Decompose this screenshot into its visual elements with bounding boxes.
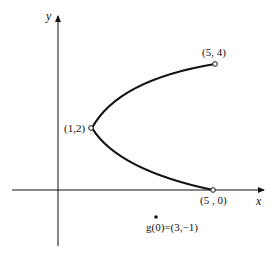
upper-end-label: (5, 4) <box>202 46 226 59</box>
y-axis-label: y <box>45 9 52 23</box>
g-point <box>154 215 158 219</box>
diagram: x y (5, 4) (1,2) (5 , 0) g(0)=(3,−1) <box>0 0 275 255</box>
x-axis-label: x <box>255 194 262 208</box>
g-point-rest: (0)=(3,−1) <box>152 221 199 234</box>
lower-end-point <box>211 188 216 193</box>
lower-end-label: (5 , 0) <box>200 194 227 207</box>
vertex-label: (1,2) <box>64 122 85 135</box>
parabola-curve <box>92 64 215 190</box>
vertex-point <box>89 126 94 131</box>
upper-end-point <box>213 62 218 67</box>
g-point-label: g(0)=(3,−1) <box>146 221 198 234</box>
